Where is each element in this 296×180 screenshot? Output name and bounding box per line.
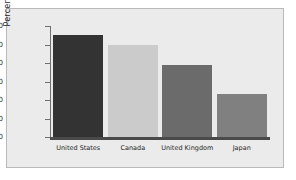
chart-figure: Percentage 6050403020100 United StatesCa… bbox=[6, 8, 284, 168]
y-axis-tick-label: 40 bbox=[0, 60, 3, 67]
y-axis-title: Percentage bbox=[3, 0, 12, 43]
y-axis-tick-mark bbox=[45, 63, 50, 64]
bar bbox=[162, 65, 212, 137]
bar bbox=[108, 45, 158, 138]
y-axis-tick-mark bbox=[45, 82, 50, 83]
bar bbox=[53, 35, 103, 137]
bar bbox=[217, 94, 267, 137]
y-axis-tick-label: 10 bbox=[0, 115, 3, 122]
y-axis-tick-label: 20 bbox=[0, 97, 3, 104]
y-axis-tick-label: 60 bbox=[0, 23, 3, 30]
y-axis-tick-label: 30 bbox=[0, 78, 3, 85]
bar-series bbox=[51, 26, 269, 137]
x-axis-baseline bbox=[50, 137, 270, 140]
y-axis-tick-mark bbox=[45, 119, 50, 120]
y-axis-tick-label: 50 bbox=[0, 41, 3, 48]
y-axis-tick-mark bbox=[45, 100, 50, 101]
x-axis-tick-label: Japan bbox=[207, 145, 278, 152]
y-axis-tick-label: 0 bbox=[0, 134, 3, 141]
y-axis-tick-mark bbox=[45, 26, 50, 27]
y-axis-tick-mark bbox=[45, 45, 50, 46]
